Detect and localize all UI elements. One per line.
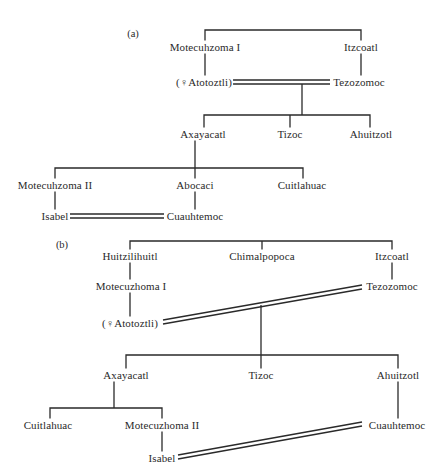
marriage-line xyxy=(178,426,362,459)
marriage-line xyxy=(163,289,362,324)
person-cuitlahuac: Cuitlahuac xyxy=(23,419,74,432)
person-cuauhtemoc: Cuauhtemoc xyxy=(368,419,427,432)
children-bracket xyxy=(126,355,398,369)
connector-lines xyxy=(0,0,443,471)
person-motecuzhoma-i: Motecuzhoma I xyxy=(95,280,168,293)
person-motecuzhoma-ii: Motecuzhoma II xyxy=(124,419,200,432)
person-axayacatl: Axayacatl xyxy=(179,128,227,141)
person-tizoc: Tizoc xyxy=(247,369,274,382)
person-ahuitzotl: Ahuitzotl xyxy=(376,369,420,382)
person-ahuitzotl: Ahuitzotl xyxy=(349,128,393,141)
person-axayacatl: Axayacatl xyxy=(102,369,150,382)
person-huitzilihuitl: Huitzilihuitl xyxy=(101,250,158,263)
person-motecuhzoma-ii: Motecuhzoma II xyxy=(17,179,93,192)
person-tezozomoc: Tezozomoc xyxy=(332,76,385,89)
marriage-line xyxy=(163,285,362,320)
children-bracket xyxy=(204,115,370,128)
panel-b-label: (b) xyxy=(56,239,68,251)
person-motecuhzoma-i: Motecuhzoma I xyxy=(169,41,242,54)
person-atotoztli: (♀Atotoztli) xyxy=(175,76,233,89)
person-tizoc: Tizoc xyxy=(276,128,303,141)
person-isabel: Isabel xyxy=(41,210,70,223)
person-itzcoatl: Itzcoatl xyxy=(343,41,379,54)
genealogy-diagram: (a) Motecuhzoma I Itzcoatl (♀Atotoztli) … xyxy=(0,0,443,471)
sibling-bracket xyxy=(205,30,361,41)
person-cuauhtemoc: Cuauhtemoc xyxy=(166,210,225,223)
marriage-line xyxy=(178,422,362,455)
person-itzcoatl: Itzcoatl xyxy=(374,250,410,263)
panel-a-label: (a) xyxy=(127,28,139,40)
person-abocaci: Abocaci xyxy=(175,179,214,192)
person-atotoztli: (♀Atotoztli) xyxy=(101,317,159,330)
person-isabel: Isabel xyxy=(148,452,177,465)
person-chimalpopoca: Chimalpopoca xyxy=(228,250,295,263)
children-bracket xyxy=(50,408,162,419)
person-cuitlahuac: Cuitlahuac xyxy=(277,179,328,192)
person-tezozomoc: Tezozomoc xyxy=(365,280,418,293)
children-bracket xyxy=(55,168,303,179)
